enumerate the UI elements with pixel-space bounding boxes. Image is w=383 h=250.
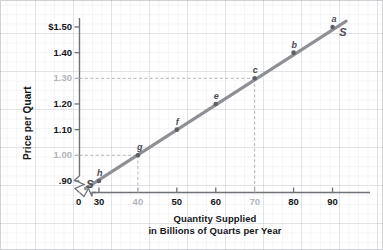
x-tick-label-60: 60 [205,196,227,207]
y-tick-label-150: $1.50 [22,21,72,32]
y-tick-label-140: 1.40 [22,47,72,58]
x-axis-title-line-1: Quantity Supplied [100,213,330,225]
x-axis-title: Quantity Supplied in Billions of Quarts … [100,213,330,237]
y-axis-title: Price per Quart [6,52,22,162]
point-label-f: f [176,117,179,127]
x-axis-title-line-2: in Billions of Quarts per Year [100,225,330,237]
data-point-e [213,102,218,107]
point-label-h: h [97,168,103,178]
curve-label-bottom: S [86,178,93,190]
y-tick-label-130: 1.30 [22,72,72,83]
data-point-b [291,50,296,55]
data-point-f [175,127,180,132]
data-point-c [252,76,257,81]
curve-label-top: S [339,26,346,38]
y-tick-label-110: 1.10 [22,124,72,135]
data-point-g [136,153,141,158]
x-tick-label-50: 50 [166,196,188,207]
point-label-c: c [253,65,258,75]
data-point-h [97,179,102,184]
y-axis-break-symbol [75,176,85,193]
point-label-e: e [214,91,219,101]
y-tick-label-90: .90 [22,175,72,186]
point-label-g: g [137,142,143,152]
point-label-b: b [292,40,298,50]
y-tick-label-100: 1.00 [22,149,72,160]
y-tick-label-120: 1.20 [22,98,72,109]
x-tick-label-40: 40 [127,196,149,207]
x-tick-label-80: 80 [283,196,305,207]
data-point-a [330,25,335,30]
point-label-a: a [332,14,337,24]
chart-figure: Price per Quart Quantity Supplied in Bil… [0,0,383,250]
x-tick-label-0: 0 [76,196,81,207]
x-tick-label-70: 70 [244,196,266,207]
x-tick-label-90: 90 [322,196,344,207]
x-tick-label-30: 30 [88,196,110,207]
